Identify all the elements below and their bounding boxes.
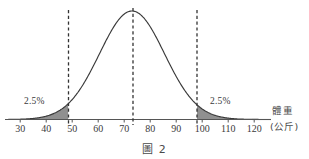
left-tail-percent-label: 2.5% [24, 97, 45, 107]
figure-caption: 圖 2 [0, 140, 309, 156]
normal-distribution-chart: 30405060708090100110120 [0, 0, 309, 159]
x-axis-tick-label: 80 [145, 123, 155, 134]
x-axis-tick-label: 70 [119, 123, 129, 134]
x-axis-tick-label: 90 [171, 123, 181, 134]
x-axis-title: 體重 [272, 106, 293, 116]
x-axis-tick-label: 40 [41, 123, 51, 134]
x-axis-unit: (公斤) [270, 122, 299, 132]
right-tail-percent-label: 2.5% [210, 97, 231, 107]
x-axis-tick-labels: 30405060708090100110120 [15, 123, 261, 134]
x-axis-tick-label: 30 [15, 123, 25, 134]
x-axis-tick-label: 60 [93, 123, 103, 134]
x-axis-tick-label: 110 [221, 123, 236, 134]
x-axis-tick-label: 120 [247, 123, 262, 134]
x-axis-tick-label: 100 [195, 123, 210, 134]
x-axis-tick-label: 50 [67, 123, 77, 134]
figure-container: 30405060708090100110120 2.5% 2.5% 體重 (公斤… [0, 0, 309, 159]
